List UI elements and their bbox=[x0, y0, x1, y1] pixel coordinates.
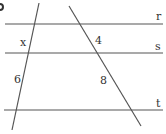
segment-label-6: 6 bbox=[14, 73, 21, 86]
segment-label-x: x bbox=[20, 36, 27, 49]
line-label-s: s bbox=[155, 40, 161, 53]
transversal-left bbox=[12, 3, 39, 130]
corner-fragment bbox=[0, 4, 3, 10]
line-label-r: r bbox=[156, 10, 162, 23]
segment-label-8: 8 bbox=[100, 74, 107, 87]
line-label-t: t bbox=[156, 97, 161, 110]
segment-label-4: 4 bbox=[95, 34, 102, 47]
diagram-canvas: r s t x 6 4 8 bbox=[0, 0, 166, 134]
